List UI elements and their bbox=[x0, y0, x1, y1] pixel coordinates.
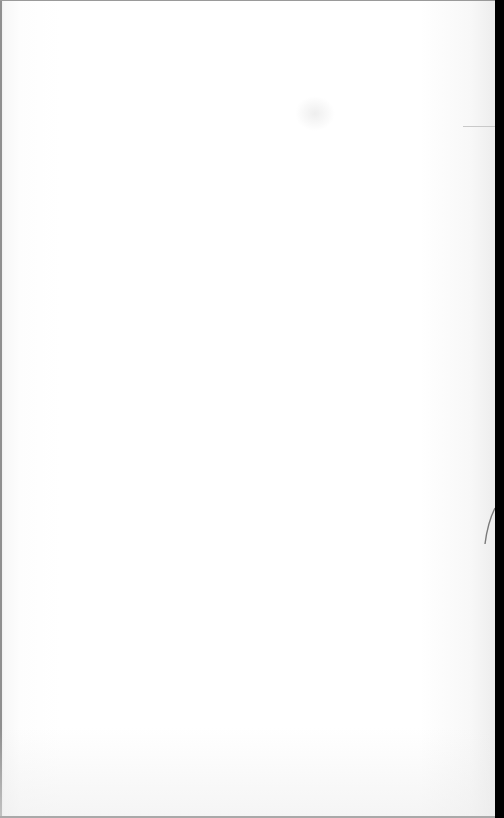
edge-tick-line bbox=[463, 126, 495, 127]
paper-smudge bbox=[295, 96, 335, 131]
blank-paper-page bbox=[0, 0, 495, 818]
dark-right-margin bbox=[495, 0, 504, 818]
bottom-shadow bbox=[0, 728, 495, 818]
